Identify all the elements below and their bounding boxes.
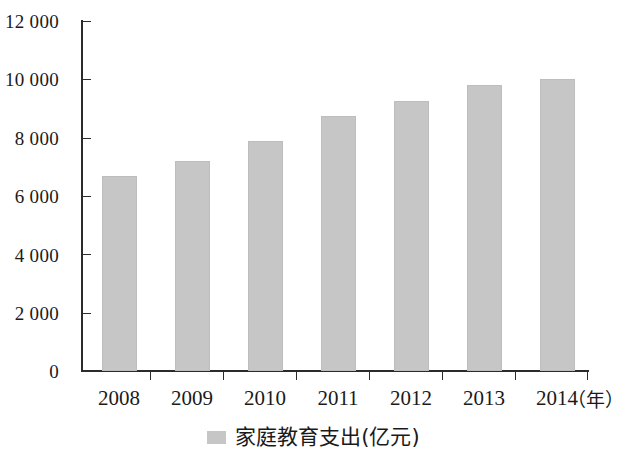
- x-axis-tick: [587, 372, 588, 380]
- bar-2008: [102, 176, 137, 371]
- legend-label: 家庭教育支出(亿元): [235, 425, 419, 449]
- x-axis-tick: [442, 372, 443, 380]
- y-axis-tick-label: 2 000: [0, 304, 59, 323]
- chart-legend: 家庭教育支出(亿元): [0, 425, 627, 449]
- bar-2011: [321, 116, 356, 371]
- bar-2009: [175, 161, 210, 371]
- x-axis-tick: [223, 372, 224, 380]
- bar-chart-figure: 12 000 10 000 8 000 6 000 4 000 2 000 0 …: [0, 0, 627, 452]
- x-axis-unit-label: （年）: [567, 388, 624, 412]
- bar-2014: [540, 79, 575, 371]
- bar-2010: [248, 141, 283, 371]
- y-axis-tick-label: 12 000: [0, 12, 59, 31]
- y-axis-tick-label: 6 000: [0, 187, 59, 206]
- y-axis-tick-label: 0: [0, 362, 59, 381]
- x-axis-tick: [369, 372, 370, 380]
- y-axis-tick-label: 10 000: [0, 70, 59, 89]
- y-axis-tick-label: 8 000: [0, 129, 59, 148]
- y-axis-tick-label: 4 000: [0, 246, 59, 265]
- x-axis-tick: [515, 372, 516, 380]
- bar-2012: [394, 101, 429, 371]
- x-axis-tick: [150, 372, 151, 380]
- x-axis-tick: [296, 372, 297, 380]
- legend-swatch-icon: [207, 431, 226, 444]
- bar-2013: [467, 85, 502, 371]
- plot-area: [81, 21, 588, 371]
